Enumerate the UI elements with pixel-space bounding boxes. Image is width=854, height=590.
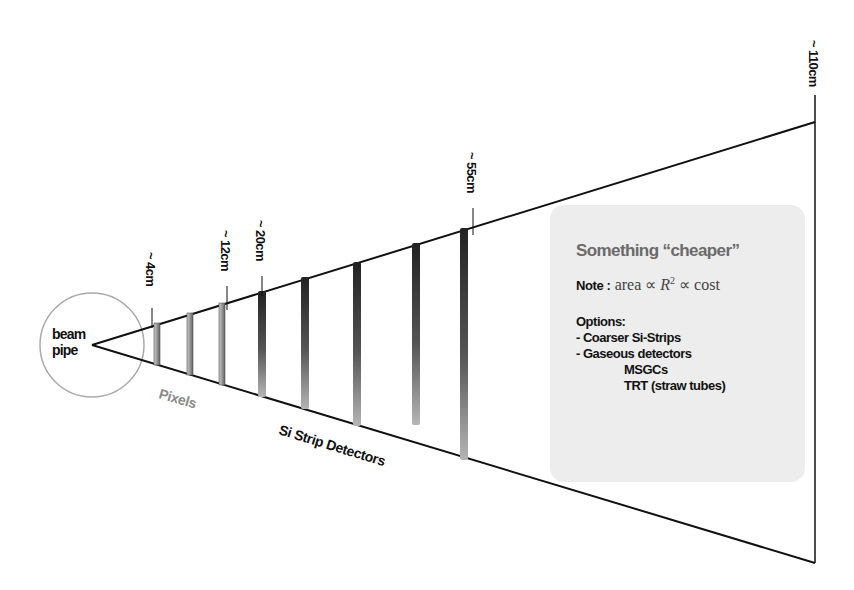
radius-label-12cm: ~ 12cm [218,230,233,271]
pixels-label: Pixels [157,386,199,412]
formula-post: ∝ cost [675,276,720,293]
note-label: Note [576,278,603,293]
option-item: - Gaseous detectors [576,346,805,362]
options-heading: Options: [576,314,805,330]
beam-pipe-label-2: pipe [52,342,79,358]
pixel-layer-2 [187,313,193,375]
strip-layer-1 [258,291,266,397]
formula-var: R [660,276,670,293]
radius-label-4cm: ~ 4cm [143,252,158,286]
note-box: Something “cheaper” Note : area ∝ R2 ∝ c… [550,205,805,482]
sub-option-item: TRT (straw tubes) [576,378,805,394]
strip-layer-4 [412,243,420,425]
strip-layer-3 [353,262,361,426]
formula-pre: area ∝ [615,276,661,293]
note-formula: Note : area ∝ R2 ∝ cost [576,275,805,294]
beam-pipe-label-1: beam [52,326,86,342]
sub-option-item: MSGCs [576,362,805,378]
pixel-layer-1 [154,323,160,365]
radius-label-20cm: ~ 20cm [253,220,268,261]
formula: area ∝ R2 ∝ cost [615,276,720,293]
note-title: Something “cheaper” [576,241,805,261]
pixel-layer-3 [219,303,225,385]
strip-layer-5 [460,228,468,460]
option-item: - Coarser Si-Strips [576,330,805,346]
note-colon: : [603,278,610,293]
strip-layer-2 [301,277,309,409]
radius-label-55cm: ~ 55cm [464,152,479,193]
radius-label-110cm: ~ 110cm [806,40,821,87]
